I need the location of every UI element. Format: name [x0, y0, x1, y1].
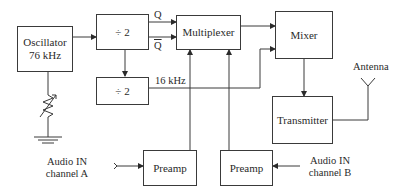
q-label: Q: [154, 9, 162, 20]
jack-a-icon: [114, 163, 117, 169]
audio-in-a-line1: Audio IN: [45, 156, 89, 168]
antenna-icon: [361, 78, 375, 86]
transmitter-block: Transmitter: [272, 96, 333, 144]
multiplexer-block: Multiplexer: [176, 15, 241, 50]
transmitter-label: Transmitter: [277, 114, 328, 127]
preamp-b-block: Preamp: [220, 150, 273, 186]
divider-bottom-block: ÷ 2: [96, 77, 149, 105]
oscillator-block: Oscillator 76 kHz: [17, 26, 73, 72]
oscillator-frequency: 76 kHz: [29, 49, 61, 62]
antenna-label: Antenna: [353, 61, 389, 73]
audio-in-b-line1: Audio IN: [308, 155, 352, 167]
divider-top-block: ÷ 2: [96, 14, 149, 50]
audio-in-b-line2: channel B: [308, 167, 352, 179]
oscillator-label: Oscillator: [23, 36, 66, 49]
mixer-label: Mixer: [291, 29, 318, 42]
preamp-a-block: Preamp: [143, 150, 197, 186]
audio-in-a-label: Audio IN channel A: [45, 156, 89, 180]
q-bar-label: Q: [154, 40, 162, 51]
divider-top-label: ÷ 2: [115, 26, 129, 39]
audio-in-a-line2: channel A: [45, 168, 89, 180]
preamp-a-label: Preamp: [153, 162, 187, 175]
preamp-b-label: Preamp: [230, 162, 264, 175]
audio-in-b-label: Audio IN channel B: [308, 155, 352, 179]
tx-to-antenna-line: [332, 86, 368, 120]
freq-16khz-label: 16 kHz: [155, 75, 186, 87]
multiplexer-label: Multiplexer: [183, 26, 235, 39]
mixer-block: Mixer: [275, 11, 333, 59]
divider-bottom-label: ÷ 2: [115, 85, 129, 98]
